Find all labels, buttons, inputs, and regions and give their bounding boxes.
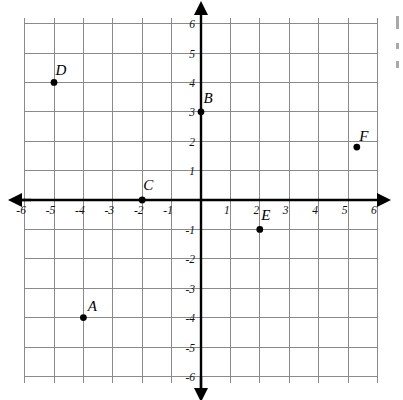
x-tick-label: -4 <box>75 204 85 216</box>
point-label-d: D <box>55 62 67 78</box>
point-label-e: E <box>260 207 270 223</box>
x-tick-label: 4 <box>312 204 318 216</box>
point-marker-a <box>80 314 87 321</box>
y-tick-label: -4 <box>185 312 195 324</box>
y-tick-label: -6 <box>185 371 195 383</box>
x-tick-label: -2 <box>134 204 144 216</box>
plotted-points: ABCDEF <box>51 62 370 321</box>
y-tick-label: 2 <box>189 136 195 148</box>
y-tick-label: 4 <box>189 77 195 89</box>
x-tick-label: -1 <box>163 204 173 216</box>
x-axis-tick-labels: -6-5-4-3-2-1123456 <box>16 204 377 216</box>
coordinate-plane-figure: -6-5-4-3-2-1123456 654321-1-2-3-4-5-6 AB… <box>0 0 403 400</box>
point-marker-b <box>198 108 205 115</box>
x-tick-label: 3 <box>282 204 289 216</box>
point-label-f: F <box>358 128 369 144</box>
x-tick-label: 1 <box>224 204 230 216</box>
point-label-b: B <box>203 90 212 106</box>
y-tick-label: -2 <box>185 253 195 265</box>
point-marker-c <box>139 197 146 204</box>
x-tick-label: 6 <box>371 204 377 216</box>
y-tick-label: 6 <box>189 18 195 30</box>
point-marker-d <box>51 79 58 86</box>
y-tick-label: 5 <box>189 48 195 60</box>
clipped-margin-mark-3 <box>396 61 399 68</box>
y-tick-label: -5 <box>185 342 195 354</box>
point-marker-e <box>256 226 263 233</box>
x-tick-label: -6 <box>16 204 26 216</box>
clipped-margin-mark-2 <box>396 43 399 49</box>
plot-canvas: -6-5-4-3-2-1123456 654321-1-2-3-4-5-6 AB… <box>0 0 403 400</box>
x-tick-label: 2 <box>253 204 259 216</box>
y-tick-label: -3 <box>185 283 195 295</box>
point-marker-f <box>353 144 360 151</box>
point-label-a: A <box>87 298 98 314</box>
axes <box>19 13 379 390</box>
y-tick-label: 3 <box>188 106 195 118</box>
x-tick-label: -3 <box>105 204 115 216</box>
y-tick-label: 1 <box>189 165 195 177</box>
clipped-margin-mark-1 <box>396 16 399 29</box>
y-tick-label: -1 <box>185 224 195 236</box>
point-label-c: C <box>143 177 154 193</box>
x-tick-label: -5 <box>46 204 56 216</box>
x-tick-label: 5 <box>342 204 348 216</box>
